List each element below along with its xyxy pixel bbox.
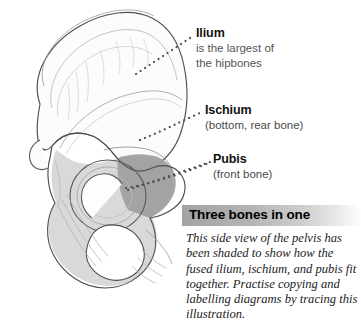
- callout-ilium-subline-1: is the largest of: [196, 41, 274, 56]
- callout-ilium-subline-2: the hipbones: [196, 56, 274, 71]
- callout-pubis-title: Pubis: [213, 152, 272, 167]
- callout-pubis: Pubis (front bone): [213, 152, 272, 182]
- callout-pubis-subline-1: (front bone): [213, 167, 272, 182]
- callout-ischium-title: Ischium: [205, 103, 303, 118]
- callout-ilium: Ilium is the largest of the hipbones: [196, 26, 274, 71]
- info-box-body: This side view of the pelvis has been sh…: [182, 231, 358, 323]
- info-box-title: Three bones in one: [189, 207, 310, 222]
- callout-ischium: Ischium (bottom, rear bone): [205, 103, 303, 133]
- callout-ilium-title: Ilium: [196, 26, 274, 41]
- callout-ischium-subline-1: (bottom, rear bone): [205, 118, 303, 133]
- info-box-header: Three bones in one: [182, 205, 361, 226]
- bone-region-ilium: [37, 10, 187, 171]
- illustration-page: Ilium is the largest of the hipbones Isc…: [0, 0, 361, 329]
- info-box: Three bones in one This side view of the…: [182, 205, 361, 323]
